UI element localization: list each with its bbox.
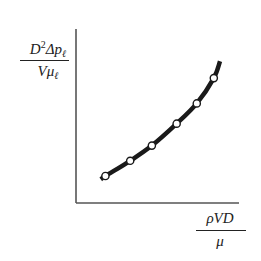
y-axis-label-fraction-bar	[20, 60, 69, 61]
data-point-marker	[148, 142, 155, 149]
x-axis-label-denominator: μ	[188, 234, 252, 249]
x-axis-label-fraction-bar	[196, 230, 246, 231]
data-point-marker	[210, 75, 217, 82]
data-curve	[101, 61, 220, 179]
y-axis-label-denominator: Vμℓ	[20, 64, 76, 81]
x-axis-label-numerator: ρVD	[188, 211, 252, 226]
data-point-marker	[102, 172, 109, 179]
y-axis-label-numerator: D2Δpℓ	[20, 40, 76, 59]
data-point-marker	[193, 100, 200, 107]
data-point-marker	[173, 120, 180, 127]
data-markers	[102, 75, 218, 180]
data-point-marker	[127, 157, 134, 164]
